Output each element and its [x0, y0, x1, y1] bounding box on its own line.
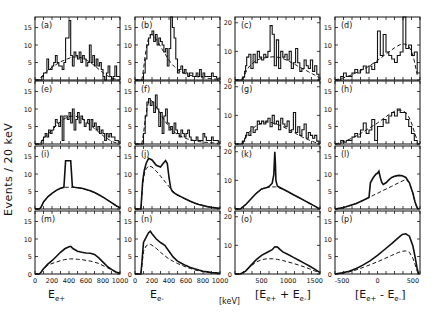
- panel-b: 051015(b): [124, 17, 220, 85]
- data-histogram: [335, 109, 420, 144]
- panel-m: 05101502004006008001000(m): [24, 211, 129, 285]
- y-tick-label: 0: [128, 77, 132, 85]
- model-dashed-curve: [135, 244, 220, 274]
- panel-j: 051015(j): [124, 146, 220, 214]
- x-tick-label: 200: [146, 277, 158, 285]
- panel-label: (g): [241, 85, 252, 94]
- panel-p: 051015-5000500(p): [324, 211, 420, 285]
- y-tick-label: 10: [324, 236, 332, 244]
- x-tick-label: 500: [255, 277, 267, 285]
- panel-h: 051015(h): [324, 81, 420, 149]
- y-tick-label: 10: [324, 171, 332, 179]
- y-tick-label: 10: [124, 236, 132, 244]
- x-tick-label: 800: [197, 277, 209, 285]
- panel-label: (l): [341, 150, 349, 159]
- y-tick-label: 5: [328, 59, 332, 67]
- y-tick-label: 20: [224, 83, 232, 91]
- y-tick-label: 5: [328, 188, 332, 196]
- panel-n: 05101502004006008001000(n): [124, 211, 229, 285]
- y-tick-label: 15: [124, 24, 132, 32]
- panel-d: 051015(d): [324, 17, 420, 85]
- x-axis-label-col3: [Ee+ + Ee-]: [255, 288, 311, 303]
- model-dashed-curve: [335, 110, 417, 144]
- model-dashed-curve: [135, 166, 220, 209]
- data-curve: [235, 152, 320, 209]
- data-curve: [35, 246, 120, 274]
- data-histogram: [235, 26, 320, 80]
- data-curve: [35, 161, 120, 209]
- panel-label: (h): [341, 85, 352, 94]
- y-tick-label: 5: [128, 59, 132, 67]
- data-curve: [235, 247, 320, 274]
- x-tick-label: 400: [63, 277, 75, 285]
- model-dashed-curve: [35, 57, 118, 80]
- y-tick-label: 15: [324, 88, 332, 96]
- model-dashed-curve: [335, 251, 419, 274]
- model-dashed-curve: [235, 187, 320, 209]
- y-tick-label: 10: [124, 42, 132, 50]
- y-tick-label: 0: [128, 271, 132, 279]
- y-tick-label: 10: [224, 177, 232, 185]
- y-tick-label: 0: [328, 141, 332, 149]
- panel-label: (i): [41, 150, 49, 159]
- model-dashed-curve: [335, 179, 419, 209]
- y-tick-label: 10: [224, 112, 232, 120]
- panel-label: (n): [141, 215, 152, 224]
- x-tick-label: 0: [133, 277, 137, 285]
- y-tick-label: 5: [28, 188, 32, 196]
- y-tick-label: 0: [28, 77, 32, 85]
- x-tick-label: 500: [407, 277, 419, 285]
- model-dashed-curve: [135, 35, 218, 81]
- y-tick-label: 10: [224, 242, 232, 250]
- y-tick-label: 10: [24, 236, 32, 244]
- x-tick-label: 0: [33, 277, 37, 285]
- panel-i: 051015(i): [24, 146, 120, 214]
- panel-label: (a): [41, 21, 52, 30]
- y-tick-label: 10: [124, 106, 132, 114]
- panel-g: 01020(g): [224, 81, 320, 149]
- y-tick-label: 15: [124, 88, 132, 96]
- y-tick-label: 15: [24, 153, 32, 161]
- y-tick-label: 15: [124, 218, 132, 226]
- y-tick-label: 0: [28, 271, 32, 279]
- panel-label: (p): [341, 215, 352, 224]
- x-tick-label: 1500: [306, 277, 323, 285]
- panel-label: (o): [241, 215, 252, 224]
- x-tick-label: 800: [97, 277, 109, 285]
- panel-c: 01020(c): [224, 17, 320, 85]
- unit-label: [keV]: [219, 297, 240, 306]
- x-axis-label-col4: [Ee+ - Ee-]: [355, 288, 405, 303]
- data-curve: [135, 231, 220, 274]
- y-tick-label: 5: [328, 253, 332, 261]
- y-tick-label: 0: [128, 206, 132, 214]
- panel-f: 051015(f): [124, 81, 220, 149]
- x-axis-label-col1: Ee+: [48, 288, 65, 303]
- y-tick-label: 10: [24, 106, 32, 114]
- x-tick-label: 200: [46, 277, 58, 285]
- y-tick-label: 0: [328, 271, 332, 279]
- x-axis-label-col2: Ee-: [150, 288, 164, 303]
- y-tick-label: 5: [28, 59, 32, 67]
- data-curve: [335, 171, 419, 209]
- panel-a: 051015(a): [24, 17, 120, 85]
- y-tick-label: 5: [28, 123, 32, 131]
- panel-label: (e): [41, 85, 52, 94]
- panel-label: (b): [141, 21, 152, 30]
- x-tick-label: -500: [335, 277, 350, 285]
- y-tick-label: 10: [324, 42, 332, 50]
- y-tick-label: 15: [324, 24, 332, 32]
- x-tick-label: 0: [375, 277, 379, 285]
- x-tick-label: 400: [163, 277, 175, 285]
- panel-label: (k): [241, 150, 252, 159]
- y-tick-label: 5: [28, 253, 32, 261]
- y-tick-label: 10: [224, 48, 232, 56]
- y-tick-label: 20: [224, 213, 232, 221]
- panel-label: (c): [241, 21, 252, 30]
- panel-k: 01020(k): [224, 146, 320, 214]
- model-dashed-curve: [35, 187, 120, 209]
- panel-o: 0102050010001500(o): [224, 211, 323, 285]
- data-curve: [335, 234, 419, 274]
- y-tick-label: 10: [124, 171, 132, 179]
- y-tick-label: 0: [228, 271, 232, 279]
- y-tick-label: 5: [328, 123, 332, 131]
